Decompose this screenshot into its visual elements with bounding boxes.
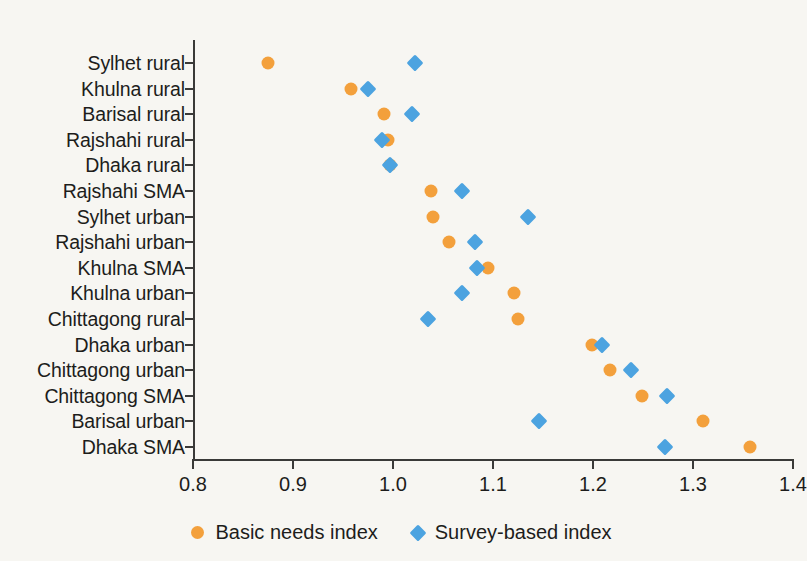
data-point-circle xyxy=(508,287,521,300)
plot-area xyxy=(193,40,793,460)
y-axis-tick xyxy=(185,88,194,90)
data-point-circle xyxy=(697,415,710,428)
legend-circle-icon xyxy=(191,526,204,539)
category-label: Chittagong SMA xyxy=(44,384,185,407)
x-axis-tick xyxy=(392,459,394,469)
x-axis-tick xyxy=(492,459,494,469)
category-label: Khulna urban xyxy=(70,282,185,305)
data-point-circle xyxy=(262,57,275,70)
data-point-circle xyxy=(512,313,525,326)
y-axis-tick xyxy=(185,369,194,371)
y-axis-tick xyxy=(185,62,194,64)
x-axis-tick-label: 1.2 xyxy=(579,473,607,496)
y-axis-tick xyxy=(185,164,194,166)
y-axis-tick xyxy=(185,395,194,397)
y-axis-tick xyxy=(185,216,194,218)
x-axis-tick-label: 0.9 xyxy=(279,473,307,496)
data-point-circle xyxy=(636,389,649,402)
x-axis-tick-label: 1.0 xyxy=(379,473,407,496)
category-label: Sylhet rural xyxy=(88,52,185,75)
x-axis-tick xyxy=(592,459,594,469)
legend-item[interactable]: Survey-based index xyxy=(412,521,612,544)
data-point-circle xyxy=(345,82,358,95)
legend-item[interactable]: Basic needs index xyxy=(191,521,377,544)
category-label: Barisal rural xyxy=(82,103,185,126)
category-label: Chittagong urban xyxy=(37,359,185,382)
category-label: Dhaka urban xyxy=(74,333,185,356)
data-point-circle xyxy=(425,185,438,198)
category-label: Dhaka SMA xyxy=(82,436,185,459)
data-point-circle xyxy=(427,210,440,223)
legend-label: Basic needs index xyxy=(215,521,377,544)
y-axis-tick xyxy=(185,267,194,269)
data-point-circle xyxy=(604,364,617,377)
x-axis-tick-label: 0.8 xyxy=(179,473,207,496)
y-axis-tick xyxy=(185,190,194,192)
x-axis-tick xyxy=(792,459,794,469)
category-label: Rajshahi urban xyxy=(55,231,185,254)
legend-diamond-icon xyxy=(409,524,426,541)
category-label: Dhaka rural xyxy=(85,154,185,177)
category-label: Barisal urban xyxy=(71,410,185,433)
data-point-circle xyxy=(443,236,456,249)
data-point-circle xyxy=(378,108,391,121)
legend-label: Survey-based index xyxy=(435,521,612,544)
x-axis-tick xyxy=(692,459,694,469)
x-axis-tick xyxy=(192,459,194,469)
y-axis-tick xyxy=(185,318,194,320)
category-label: Chittagong rural xyxy=(48,308,185,331)
y-axis-tick xyxy=(185,446,194,448)
x-axis-tick-label: 1.3 xyxy=(679,473,707,496)
x-axis-tick xyxy=(292,459,294,469)
y-axis-tick xyxy=(185,420,194,422)
y-axis-tick xyxy=(185,292,194,294)
y-axis-tick xyxy=(185,139,194,141)
y-axis-tick xyxy=(185,113,194,115)
x-axis-tick-label: 1.1 xyxy=(479,473,507,496)
category-label: Khulna SMA xyxy=(78,256,185,279)
data-point-circle xyxy=(744,441,757,454)
category-label: Khulna rural xyxy=(81,77,185,100)
chart-legend: Basic needs indexSurvey-based index xyxy=(0,521,803,544)
category-label: Rajshahi SMA xyxy=(63,180,185,203)
y-axis-tick xyxy=(185,241,194,243)
category-label: Rajshahi rural xyxy=(66,128,185,151)
category-label: Sylhet urban xyxy=(77,205,185,228)
x-axis-tick-label: 1.4 xyxy=(779,473,807,496)
y-axis-tick xyxy=(185,344,194,346)
